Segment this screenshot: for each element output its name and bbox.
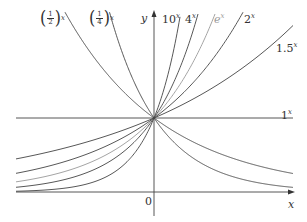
curves — [16, 12, 293, 191]
curve-10x — [16, 17, 180, 191]
ten-base: 10 — [162, 13, 176, 26]
half-denominator: 2 — [48, 19, 52, 26]
curve-4x — [16, 14, 198, 187]
curve-ex — [16, 14, 215, 182]
curve-1.5x — [16, 26, 293, 159]
quarter-denominator: 4 — [97, 19, 101, 26]
x-axis-arrow-icon — [288, 190, 295, 195]
label-10-power-x: 10x — [162, 13, 180, 25]
onehalf-exponent: x — [294, 41, 298, 49]
two-exponent: x — [251, 12, 255, 20]
label-4-power-x: 4x — [185, 13, 196, 25]
one-base: 1 — [281, 109, 288, 122]
label-e-power-x: ex — [214, 13, 224, 25]
onehalf-base: 1.5 — [276, 42, 294, 55]
y-axis-label: y — [141, 13, 147, 24]
four-exponent: x — [192, 12, 196, 20]
curve-14x — [110, 12, 294, 187]
label-half-power-x: (12)x — [40, 10, 65, 26]
label-2-power-x: 2x — [244, 13, 255, 25]
ten-exponent: x — [176, 12, 180, 20]
exponential-functions-plot — [0, 0, 307, 222]
label-1-power-x: 1x — [281, 109, 292, 121]
origin-label: 0 — [145, 196, 152, 207]
one-exponent: x — [288, 108, 292, 116]
label-quarter-power-x: (14)x — [89, 10, 114, 26]
half-exponent: x — [61, 15, 65, 22]
quarter-exponent: x — [110, 15, 114, 22]
label-1.5-power-x: 1.5x — [276, 42, 297, 54]
two-base: 2 — [244, 13, 251, 26]
e-exponent: x — [221, 12, 225, 20]
x-axis-label: x — [288, 199, 294, 210]
y-axis-arrow-icon — [152, 10, 157, 17]
four-base: 4 — [185, 13, 192, 26]
